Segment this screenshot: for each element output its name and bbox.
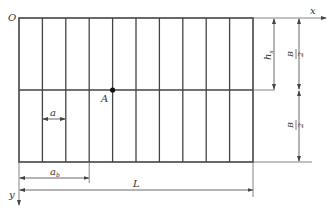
y-axis-label: y (8, 189, 15, 200)
x-axis-label: x (310, 5, 316, 16)
dim-ab-label: ab (50, 166, 60, 178)
svg-text:B: B (286, 51, 295, 58)
svg-text:B: B (286, 122, 295, 129)
svg-text:2: 2 (296, 123, 305, 129)
dim-b-half-upper-label: B 2 (286, 49, 305, 59)
dim-L-label: L (132, 178, 140, 189)
origin-label: O (8, 12, 16, 23)
dim-b-half-lower-label: B 2 (286, 120, 305, 130)
plate-grid-diagram: A O x y a ab L hs B 2 B 2 (0, 0, 331, 212)
svg-text:2: 2 (296, 52, 305, 58)
point-a (110, 87, 115, 92)
point-a-label: A (100, 93, 108, 104)
dim-a-label: a (50, 107, 56, 118)
dim-hs-label: hs (262, 50, 274, 60)
